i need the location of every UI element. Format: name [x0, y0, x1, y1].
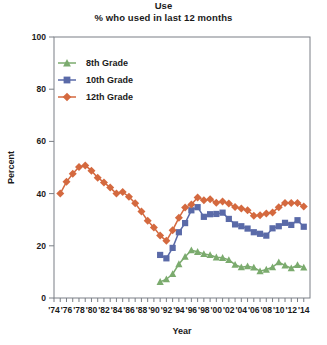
data-point-marker [182, 220, 188, 226]
data-point-marker [232, 221, 238, 227]
data-point-marker [56, 190, 64, 198]
series-10th-grade [157, 204, 307, 261]
data-point-marker [226, 216, 232, 222]
x-tick-label: '04 [236, 305, 248, 315]
data-point-marker [256, 211, 264, 219]
y-tick-label: 100 [32, 32, 46, 42]
x-tick-label: '78 [73, 305, 85, 315]
chart-plot: 020406080100 '74'76'78'80'82'84'86'88'90… [0, 0, 327, 345]
data-point-marker [294, 199, 302, 207]
data-point-marker [175, 214, 183, 222]
x-tick-label: '90 [148, 305, 160, 315]
x-tick-label: '92 [161, 305, 173, 315]
data-point-marker [294, 261, 301, 268]
data-point-marker [263, 233, 269, 239]
legend-group: 8th Grade10th Grade12th Grade [58, 58, 133, 102]
x-axis-ticks-group: '74'76'78'80'82'84'86'88'90'92'94'96'98'… [48, 298, 310, 315]
x-axis-title: Year [172, 326, 192, 336]
data-point-marker [206, 195, 214, 203]
y-tick-label: 60 [37, 136, 47, 146]
data-point-marker [294, 217, 300, 223]
data-point-marker [201, 214, 207, 220]
data-point-marker [300, 202, 308, 210]
series-8th-grade [157, 247, 308, 285]
x-tick-label: '82 [98, 305, 110, 315]
legend-label-1: 10th Grade [86, 75, 133, 85]
data-point-marker [219, 210, 225, 216]
data-point-marker [219, 197, 227, 205]
data-point-marker [275, 259, 282, 266]
x-tick-label: '80 [86, 305, 98, 315]
x-tick-label: '76 [61, 305, 73, 315]
y-axis-ticks-group: 020406080100 [32, 32, 54, 303]
data-point-marker [163, 255, 169, 261]
data-point-marker [282, 220, 288, 226]
data-point-marker [176, 229, 182, 235]
data-point-marker [262, 209, 270, 217]
data-point-marker [157, 252, 163, 258]
x-tick-label: '84 [111, 305, 123, 315]
data-point-marker [170, 245, 176, 251]
x-tick-label: '06 [248, 305, 260, 315]
y-tick-label: 20 [37, 241, 47, 251]
data-point-marker [288, 265, 295, 272]
y-axis-title: Percent [6, 151, 16, 184]
data-point-marker [281, 262, 288, 269]
data-point-marker [207, 211, 213, 217]
data-point-marker [257, 231, 263, 237]
x-tick-label: '08 [261, 305, 273, 315]
x-tick-label: '00 [211, 305, 223, 315]
data-point-marker [288, 222, 294, 228]
x-tick-label: '86 [123, 305, 135, 315]
data-point-marker [212, 199, 220, 207]
y-tick-label: 0 [41, 293, 46, 303]
x-tick-label: '88 [136, 305, 148, 315]
x-tick-label: '14 [298, 305, 310, 315]
x-tick-label: '96 [186, 305, 198, 315]
x-tick-label: '12 [286, 305, 298, 315]
y-tick-label: 40 [37, 189, 47, 199]
data-point-marker [237, 204, 245, 212]
data-point-marker [63, 93, 72, 102]
data-point-marker [251, 229, 257, 235]
data-point-marker [276, 223, 282, 229]
data-point-marker [169, 226, 177, 234]
x-tick-label: '02 [223, 305, 235, 315]
data-point-marker [188, 247, 195, 254]
y-tick-label: 80 [37, 84, 47, 94]
x-tick-label: '94 [173, 305, 185, 315]
x-tick-label: '74 [48, 305, 60, 315]
data-point-marker [213, 211, 219, 217]
legend-label-0: 8th Grade [86, 58, 128, 68]
data-series-group [56, 161, 308, 285]
legend-label-2: 12th Grade [86, 92, 133, 102]
x-tick-label: '10 [273, 305, 285, 315]
data-point-marker [301, 224, 307, 230]
data-point-marker [231, 203, 239, 211]
data-point-marker [225, 200, 233, 208]
data-point-marker [238, 223, 244, 229]
data-point-marker [64, 77, 71, 84]
data-point-marker [244, 225, 250, 231]
chart-root: Use % who used in last 12 months 0204060… [0, 0, 327, 345]
data-point-marker [195, 204, 201, 210]
x-tick-label: '98 [198, 305, 210, 315]
data-point-marker [269, 225, 275, 231]
